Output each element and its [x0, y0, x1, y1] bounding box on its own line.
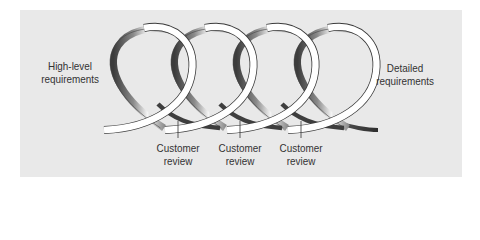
customer-review-label-1: Customer review: [148, 142, 208, 168]
review-line1: Customer: [271, 142, 331, 155]
review-line1: Customer: [148, 142, 208, 155]
end-label: Detailed requirements: [364, 62, 447, 88]
start-label: High-level requirements: [29, 60, 112, 86]
end-label-text: Detailed requirements: [371, 62, 440, 88]
review-line1: Customer: [210, 142, 270, 155]
customer-review-label-2: Customer review: [210, 142, 270, 168]
customer-review-label-3: Customer review: [271, 142, 331, 168]
review-line2: review: [148, 155, 208, 168]
review-line2: review: [271, 155, 331, 168]
start-label-text: High-level requirements: [36, 60, 105, 86]
review-line2: review: [210, 155, 270, 168]
